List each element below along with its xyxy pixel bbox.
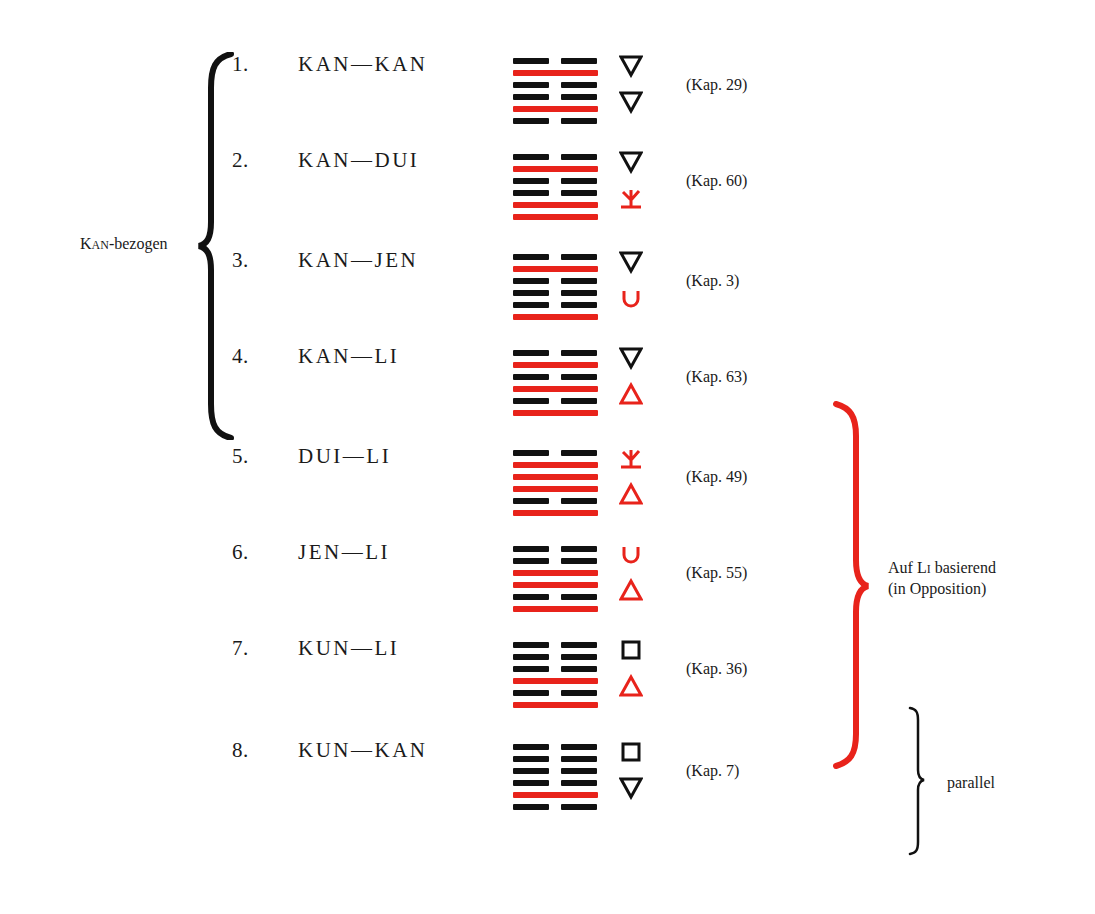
yin-line-segment [513, 498, 549, 504]
parallel-group-brace [908, 706, 930, 856]
yin-line [513, 558, 598, 564]
yin-line-segment [513, 768, 549, 774]
hexagram-row: 2.KAN—DUI(Kap. 60) [0, 148, 1095, 238]
yin-line-segment [513, 350, 549, 356]
yin-line-segment [561, 756, 597, 762]
yang-line [513, 166, 598, 172]
hexagram-name: KAN—KAN [298, 52, 428, 77]
yin-line-segment [561, 804, 597, 810]
chapter-reference: (Kap. 29) [686, 76, 747, 94]
yang-line [513, 510, 598, 516]
triangle-down-icon [619, 90, 643, 114]
dui-icon [619, 186, 643, 210]
yin-line-segment [513, 82, 549, 88]
hexagram-figure [513, 350, 598, 422]
parallel-group-label: parallel [947, 773, 995, 792]
hexagram-figure [513, 254, 598, 326]
yin-line [513, 302, 598, 308]
yang-line [513, 606, 598, 612]
yin-line-segment [561, 290, 597, 296]
yin-line [513, 398, 598, 404]
yin-line-segment [561, 450, 597, 456]
yang-line [513, 410, 598, 416]
hexagram-name: KUN—LI [298, 636, 399, 661]
yin-line [513, 82, 598, 88]
yin-line-segment [561, 666, 597, 672]
yin-line [513, 690, 598, 696]
yin-line-segment [561, 178, 597, 184]
yin-line-segment [561, 594, 597, 600]
yin-line [513, 744, 598, 750]
triangle-up-icon [619, 578, 643, 602]
row-number: 6. [232, 540, 249, 565]
yin-line-segment [513, 254, 549, 260]
yin-line-segment [561, 744, 597, 750]
yin-line [513, 654, 598, 660]
kan-group-label: KAN-bezogen [80, 234, 168, 255]
hexagram-name: KUN—KAN [298, 738, 428, 763]
yin-line [513, 118, 598, 124]
yin-line-segment [561, 654, 597, 660]
yang-line [513, 266, 598, 272]
li-group-label: Auf LI basierend (in Opposition) [888, 558, 996, 598]
hexagram-name: JEN—LI [298, 540, 390, 565]
yang-line [513, 202, 598, 208]
yin-line-segment [561, 82, 597, 88]
triangle-down-icon [619, 250, 643, 274]
triangle-down-icon [619, 150, 643, 174]
hexagram-row: 7.KUN—LI(Kap. 36) [0, 636, 1095, 726]
yin-line-segment [513, 190, 549, 196]
yin-line [513, 290, 598, 296]
triangle-down-icon [619, 346, 643, 370]
yin-line-segment [561, 94, 597, 100]
hexagram-row: 1.KAN—KAN(Kap. 29) [0, 52, 1095, 142]
yin-line-segment [513, 654, 549, 660]
chapter-reference: (Kap. 60) [686, 172, 747, 190]
yin-line-segment [561, 374, 597, 380]
yin-line-segment [513, 374, 549, 380]
yin-line-segment [513, 666, 549, 672]
yang-line [513, 462, 598, 468]
hexagram-figure [513, 450, 598, 522]
chapter-reference: (Kap. 49) [686, 468, 747, 486]
yin-line [513, 498, 598, 504]
yin-line-segment [513, 804, 549, 810]
yin-line-segment [513, 642, 549, 648]
row-number: 8. [232, 738, 249, 763]
cup-icon [619, 542, 643, 566]
yang-line [513, 678, 598, 684]
chapter-reference: (Kap. 3) [686, 272, 739, 290]
yin-line-segment [561, 154, 597, 160]
triangle-up-icon [619, 482, 643, 506]
chapter-reference: (Kap. 7) [686, 762, 739, 780]
yin-line-segment [513, 178, 549, 184]
chapter-reference: (Kap. 55) [686, 564, 747, 582]
yin-line [513, 350, 598, 356]
yang-line [513, 106, 598, 112]
yin-line-segment [561, 690, 597, 696]
yin-line-segment [561, 558, 597, 564]
yin-line [513, 58, 598, 64]
yin-line-segment [513, 302, 549, 308]
yin-line-segment [561, 498, 597, 504]
yin-line-segment [561, 642, 597, 648]
hexagram-name: KAN—LI [298, 344, 399, 369]
yin-line [513, 254, 598, 260]
yin-line-segment [561, 546, 597, 552]
yang-line [513, 386, 598, 392]
yin-line-segment [513, 290, 549, 296]
yin-line-segment [561, 278, 597, 284]
yin-line-segment [561, 190, 597, 196]
yin-line-segment [561, 118, 597, 124]
hexagram-name: DUI—LI [298, 444, 391, 469]
yin-line-segment [513, 154, 549, 160]
yin-line-segment [513, 118, 549, 124]
row-number: 7. [232, 636, 249, 661]
yin-line-segment [561, 780, 597, 786]
triangle-down-icon [619, 54, 643, 78]
yin-line [513, 642, 598, 648]
yin-line-segment [513, 594, 549, 600]
yin-line [513, 190, 598, 196]
yin-line [513, 768, 598, 774]
triangle-down-icon [619, 776, 643, 800]
